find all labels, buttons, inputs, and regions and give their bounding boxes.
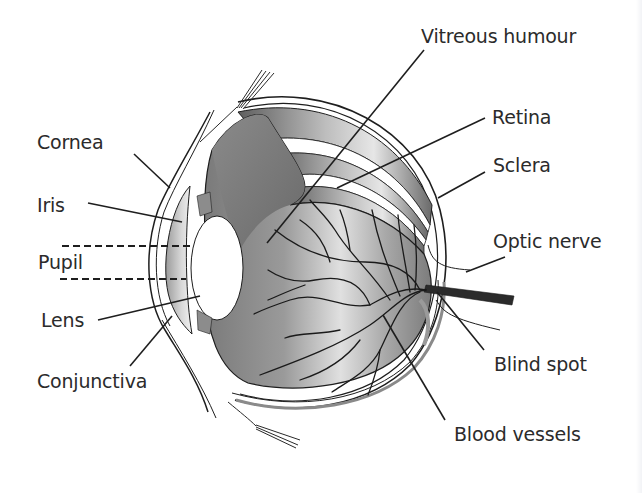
- label-cornea: Cornea: [37, 133, 104, 152]
- label-sclera: Sclera: [493, 156, 551, 175]
- label-blood-vessels: Blood vessels: [454, 425, 581, 444]
- ciliary-body-upper: [197, 192, 212, 216]
- lens-opening: [191, 216, 243, 320]
- label-retina: Retina: [492, 108, 551, 127]
- label-blind-spot: Blind spot: [494, 355, 587, 374]
- leader-cornea: [134, 154, 170, 188]
- label-iris: Iris: [37, 196, 65, 215]
- label-vitreous-humour: Vitreous humour: [421, 27, 576, 46]
- leader-blind-spot: [437, 292, 484, 350]
- label-optic-nerve: Optic nerve: [493, 232, 602, 251]
- leader-optic-nerve: [466, 257, 505, 272]
- leader-conjunctiva: [130, 316, 172, 366]
- leader-sclera: [438, 172, 485, 198]
- iris-crescent: [166, 186, 192, 334]
- label-pupil: Pupil: [38, 253, 83, 272]
- leader-iris: [88, 203, 182, 222]
- label-conjunctiva: Conjunctiva: [37, 372, 147, 391]
- label-lens: Lens: [41, 311, 84, 330]
